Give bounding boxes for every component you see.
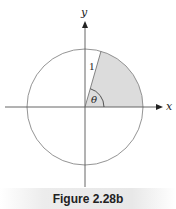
radius-label: 1 xyxy=(89,60,95,72)
unit-circle-diagram: y x 1 θ xyxy=(0,0,176,190)
figure-caption: Figure 2.28b xyxy=(0,192,176,206)
x-axis-label: x xyxy=(166,100,173,113)
x-axis-arrow-icon xyxy=(156,104,163,110)
angle-label: θ xyxy=(91,94,97,105)
y-axis-arrow-icon xyxy=(82,21,88,28)
y-axis-label: y xyxy=(80,6,88,19)
